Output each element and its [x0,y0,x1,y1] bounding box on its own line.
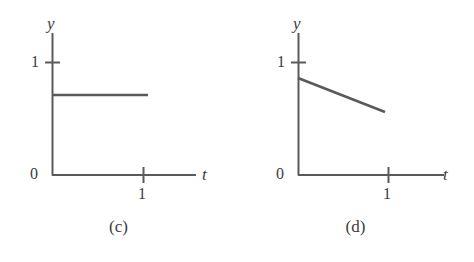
y-axis-label-c: y [47,15,55,32]
panel-caption-c: (c) [0,218,237,235]
x-axis-label-c: t [202,166,207,183]
x-axis-label-d: t [443,166,448,183]
y-tick-label-d-1: 1 [277,54,285,70]
origin-label-d: 0 [276,166,284,182]
plot-panel-d: y t 1 1 0 (d) [237,0,474,262]
y-tick-label-c-1: 1 [31,54,39,70]
plot-panel-c: y t 1 1 0 (c) [0,0,237,262]
x-tick-label-d-1: 1 [383,186,391,202]
y-axis-label-d: y [293,15,301,32]
origin-label-c: 0 [30,166,38,182]
data-line-d [298,78,385,112]
panel-caption-d: (d) [237,218,474,235]
figure-root: y t 1 1 0 (c) y t 1 1 0 (d) [0,0,474,262]
x-tick-label-c-1: 1 [138,186,146,202]
